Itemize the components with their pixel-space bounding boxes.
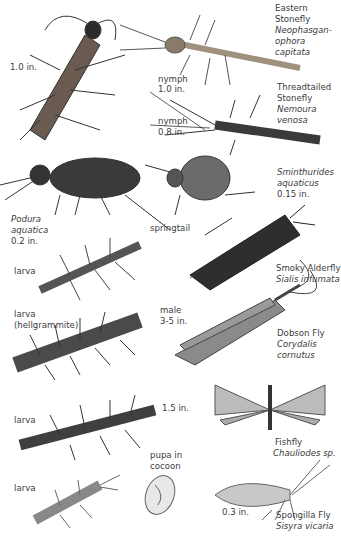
fishfly-illustration [215, 385, 325, 430]
hellgrammite-line-1: larva [14, 309, 36, 319]
spongilla-larva-illustration [35, 475, 120, 528]
eastern-stonefly-nymph-illustration [120, 15, 300, 85]
eastern-stonefly-sci-3: capitata [275, 47, 310, 57]
eastern-stonefly-sci-2: ophora [275, 36, 305, 46]
dobson-fly-sci-2: cornutus [277, 350, 315, 360]
fishfly-larva-stage: larva [14, 415, 36, 425]
springtail-label: springtail [150, 223, 190, 233]
adult-stonefly-size: 1.0 in. [10, 62, 37, 72]
eastern-nymph-size: 1.0 in. [158, 84, 185, 94]
eastern-nymph-stage: nymph [158, 74, 188, 84]
smoky-alderfly-common: Smoky Alderfly [276, 263, 341, 273]
dobson-fly-sci-1: Corydalis [277, 339, 317, 349]
alderfly-larva-illustration [40, 238, 140, 300]
podura-sci-1: Podura [11, 214, 41, 224]
podura-size: 0.2 in. [11, 236, 38, 246]
threadtailed-nymph-size: 0.8 in. [158, 127, 185, 137]
dobson-male-line-1: male [160, 305, 181, 315]
threadtailed-sci-2: venosa [277, 115, 308, 125]
threadtailed-common-1: Threadtailed [277, 82, 331, 92]
threadtailed-common-2: Stonefly [277, 93, 312, 103]
spongilla-fly-common: Spongilla Fly [276, 510, 331, 520]
alderfly-larva-label: larva [14, 266, 36, 276]
sminthurides-size: 0.15 in. [277, 189, 309, 199]
threadtailed-sci-1: Nemoura [277, 104, 317, 114]
spongilla-fly-sci: Sisyra vicaria [276, 521, 334, 531]
eastern-stonefly-common-1: Eastern [275, 3, 308, 13]
fishfly-larva-size: 1.5 in. [162, 403, 189, 413]
eastern-stonefly-common-2: Stonefly [275, 14, 310, 24]
pupa-cocoon-illustration [140, 471, 180, 518]
hellgrammite-line-2: (hellgrammite) [14, 320, 78, 330]
fishfly-sci: Chauliodes sp. [273, 448, 336, 458]
podura-sci-2: aquatica [11, 225, 48, 235]
pupa-line-1: pupa in [150, 450, 182, 460]
smoky-alderfly-sci: Sialis infumata [276, 274, 340, 284]
spongilla-larva-label: larva [14, 483, 36, 493]
adult-stonefly-illustration [20, 16, 125, 140]
fishfly-larva-illustration [20, 395, 155, 460]
dobson-male-line-2: 3-5 in. [160, 316, 187, 326]
eastern-stonefly-sci-1: Neophasgan- [275, 25, 332, 35]
fishfly-common: Fishfly [275, 437, 302, 447]
pupa-line-2: cocoon [150, 461, 181, 471]
spongilla-size: 0.3 in. [222, 507, 249, 517]
sminthurides-sci-1: Sminthurides [277, 167, 334, 177]
sminthurides-sci-2: aquaticus [277, 178, 319, 188]
dobson-fly-common: Dobson Fly [277, 328, 325, 338]
threadtailed-nymph-stage: nymph [158, 116, 188, 126]
